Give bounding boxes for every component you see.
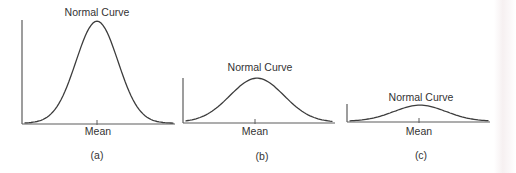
panel-b	[183, 78, 335, 124]
panel-c	[347, 104, 490, 123]
mean-label: Mean	[242, 126, 268, 137]
panel-caption: (b)	[256, 151, 269, 162]
normal-curve-path	[186, 78, 332, 121]
curve-label: Normal Curve	[228, 62, 293, 73]
panel-caption: (c)	[415, 150, 427, 161]
curve-label: Normal Curve	[65, 7, 130, 18]
normal-curve-path	[25, 21, 173, 123]
mean-label: Mean	[406, 126, 432, 137]
normal-curves-figure: Normal Curve Mean (a) Normal Curve Mean …	[0, 0, 516, 173]
panel-caption: (a)	[91, 150, 104, 161]
mean-label: Mean	[85, 126, 111, 137]
curves-canvas	[0, 0, 516, 173]
panel-a	[22, 20, 175, 125]
curve-label: Normal Curve	[389, 92, 454, 103]
